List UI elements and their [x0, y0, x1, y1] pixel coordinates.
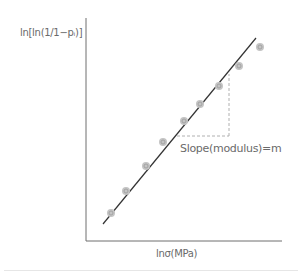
- data-point: [107, 209, 115, 217]
- x-axis-label: lnσ(MPa): [156, 248, 197, 259]
- data-point: [215, 82, 223, 90]
- data-point: [235, 62, 243, 70]
- y-axis-label: ln[ln(1/1−pᵢ)]: [20, 27, 82, 38]
- slope-annotation: Slope(modulus)=m: [180, 142, 281, 155]
- axes: [86, 18, 282, 241]
- data-point: [142, 162, 150, 170]
- data-point: [180, 117, 188, 125]
- data-point: [159, 138, 167, 146]
- data-point: [196, 100, 204, 108]
- data-point: [256, 43, 264, 51]
- bottom-divider: [4, 270, 298, 271]
- fit-line: [103, 38, 256, 224]
- data-point: [122, 187, 130, 195]
- weibull-plot: [0, 0, 303, 273]
